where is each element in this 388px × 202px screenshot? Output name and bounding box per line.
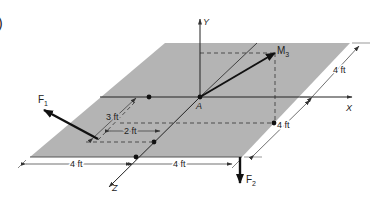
y-axis-label: Y [203,17,210,27]
ext-tick-left [18,160,26,168]
dim-right-bottom-label: 4 ft [277,120,290,130]
panel-marker: ) [0,15,3,31]
point-x-neg [147,95,152,100]
dim-3ft-label: 3 ft [106,112,119,122]
origin-point [198,95,203,100]
x-axis-label: X [345,103,353,113]
force-f2-label: F2 [246,174,256,187]
dim-bottom-left-label: 4 ft [70,159,83,169]
origin-label: A [195,101,202,111]
plate [30,43,350,157]
force-f1-label: F1 [38,94,48,107]
dim-2ft-label: 2 ft [124,126,137,136]
dim-bottom-right-label: 4 ft [173,159,186,169]
z-axis-label: Z [111,183,118,193]
point-z-edge [134,155,139,160]
plate-diagram: ) 3 ft 2 ft F1 M3 A Y X Z 4 ft 4 ft 4 [0,0,388,202]
dim-right-top-label: 4 ft [333,65,346,75]
point-m3-proj [272,121,277,126]
